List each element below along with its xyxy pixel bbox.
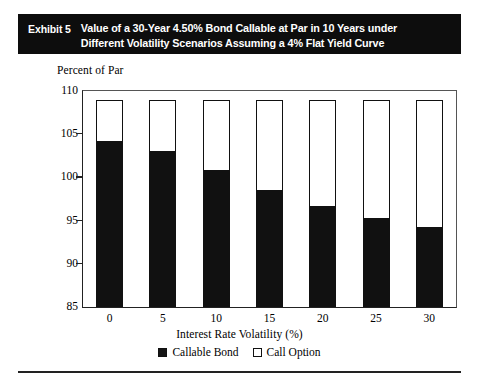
y-axis-tick-mark <box>76 263 82 264</box>
legend-item-label: Callable Bond <box>172 346 238 358</box>
exhibit-title-line-2: Different Volatility Scenarios Assuming … <box>81 36 453 51</box>
y-axis-tick-label: 95 <box>54 214 78 226</box>
exhibit-title-banner: Exhibit 5 Value of a 30-Year 4.50% Bond … <box>18 14 461 54</box>
y-axis-tick-labels: 859095100105110 <box>52 90 78 308</box>
y-axis-tick-marks <box>76 90 82 308</box>
y-axis-tick-label: 85 <box>54 300 78 312</box>
bar-call-option-segment[interactable] <box>96 100 123 307</box>
legend-item[interactable]: Call Option <box>253 346 321 358</box>
bar-group[interactable] <box>363 91 390 307</box>
bar-callable-bond-segment[interactable] <box>364 218 389 307</box>
bar-callable-bond-segment[interactable] <box>150 151 175 307</box>
x-axis-tick-label: 5 <box>160 312 166 324</box>
y-axis-tick-mark <box>76 220 82 221</box>
bottom-divider <box>18 371 461 373</box>
x-axis-tick-label: 0 <box>107 312 113 324</box>
bar-call-option-segment[interactable] <box>203 100 230 307</box>
y-axis-tick-label: 100 <box>54 170 78 182</box>
x-axis-tick-label: 30 <box>424 312 436 324</box>
bar-callable-bond-segment[interactable] <box>257 190 282 307</box>
bar-series-layer <box>83 91 456 307</box>
y-axis-tick-label: 90 <box>54 257 78 269</box>
y-axis-tick-mark <box>76 176 82 177</box>
x-axis-title: Interest Rate Volatility (%) <box>0 328 479 340</box>
y-axis-title: Percent of Par <box>57 64 124 76</box>
bar-callable-bond-segment[interactable] <box>417 227 442 307</box>
bar-group[interactable] <box>149 91 176 307</box>
bar-group[interactable] <box>203 91 230 307</box>
x-axis-tick-labels: 051015202530 <box>83 312 456 328</box>
x-axis-tick-label: 20 <box>317 312 329 324</box>
legend-swatch-hollow-icon <box>253 348 262 357</box>
bar-call-option-segment[interactable] <box>416 100 443 307</box>
bar-callable-bond-segment[interactable] <box>204 170 229 307</box>
exhibit-title-text: Value of a 30-Year 4.50% Bond Callable a… <box>81 18 453 51</box>
legend-item[interactable]: Callable Bond <box>158 346 238 358</box>
chart-legend: Callable BondCall Option <box>0 346 479 358</box>
bar-callable-bond-segment[interactable] <box>310 206 335 307</box>
y-axis-tick-label: 110 <box>54 84 78 96</box>
legend-item-label: Call Option <box>267 346 321 358</box>
bar-group[interactable] <box>416 91 443 307</box>
bar-call-option-segment[interactable] <box>363 100 390 307</box>
y-axis-tick-label: 105 <box>54 127 78 139</box>
bar-call-option-segment[interactable] <box>309 100 336 307</box>
bar-group[interactable] <box>309 91 336 307</box>
bar-group[interactable] <box>96 91 123 307</box>
legend-swatch-filled-icon <box>158 348 167 357</box>
bar-call-option-segment[interactable] <box>149 100 176 307</box>
exhibit-figure: Exhibit 5 Value of a 30-Year 4.50% Bond … <box>0 0 479 386</box>
x-axis-tick-label: 15 <box>264 312 276 324</box>
bar-call-option-segment[interactable] <box>256 100 283 307</box>
x-axis-tick-label: 25 <box>370 312 382 324</box>
y-axis-tick-mark <box>76 133 82 134</box>
bar-group[interactable] <box>256 91 283 307</box>
bar-callable-bond-segment[interactable] <box>97 141 122 307</box>
x-axis-tick-label: 10 <box>210 312 222 324</box>
exhibit-title-line-1: Value of a 30-Year 4.50% Bond Callable a… <box>81 21 453 36</box>
exhibit-number-label: Exhibit 5 <box>28 18 81 35</box>
